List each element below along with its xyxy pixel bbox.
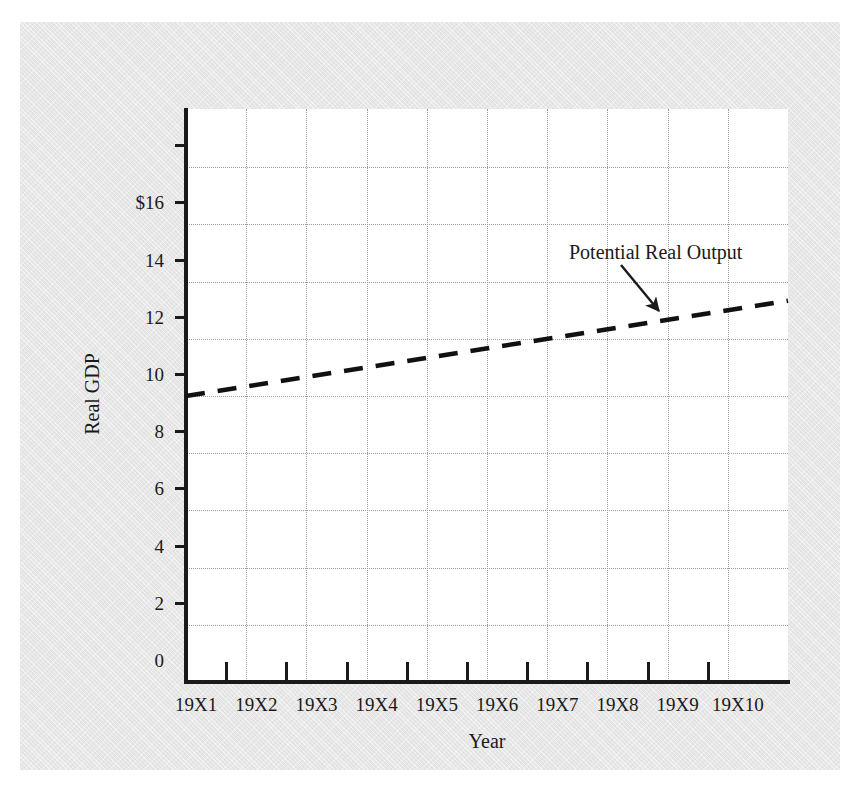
- x-axis-tick-label: 19X3: [295, 694, 337, 716]
- x-axis-tick-label: 19X1: [175, 694, 217, 716]
- gridline-vertical: [607, 109, 608, 681]
- x-axis-tick-label: 19X5: [416, 694, 458, 716]
- y-axis-tick-mark: [175, 602, 188, 605]
- x-axis-tick-mark: [225, 662, 228, 682]
- gridline-vertical: [487, 109, 488, 681]
- figure-panel: 02468101214$16 19X119X219X319X419X519X61…: [20, 22, 840, 770]
- y-axis-tick-mark: [175, 201, 188, 204]
- x-axis-tick-label: 19X4: [356, 694, 398, 716]
- gridline-vertical: [547, 109, 548, 681]
- x-axis-tick-mark: [466, 662, 469, 682]
- y-axis-tick-label: 2: [102, 594, 164, 613]
- y-axis-tick-labels: 02468101214$16: [102, 22, 164, 770]
- gridline-vertical: [427, 109, 428, 681]
- gridline-vertical: [306, 109, 307, 681]
- x-axis-tick-label: 19X6: [476, 694, 518, 716]
- gridline-vertical: [246, 109, 247, 681]
- y-axis-tick-label: 0: [102, 651, 164, 670]
- y-axis-tick-mark: [175, 316, 188, 319]
- y-axis-tick-label: 4: [102, 537, 164, 556]
- y-axis-tick-mark: [175, 430, 188, 433]
- x-axis-tick-mark: [346, 662, 349, 682]
- y-axis-tick-label: 8: [102, 422, 164, 441]
- y-axis-tick-mark: [175, 259, 188, 262]
- x-axis-tick-mark: [647, 662, 650, 682]
- y-axis-tick-label: $16: [102, 193, 164, 212]
- x-axis-tick-label: 19X7: [536, 694, 578, 716]
- y-axis-tick-label: 14: [102, 251, 164, 270]
- x-axis-tick-label: 19X9: [657, 694, 699, 716]
- x-axis-line: [184, 680, 790, 684]
- y-axis-tick-mark: [175, 545, 188, 548]
- y-axis-tick-mark: [175, 487, 188, 490]
- x-axis-tick-mark: [285, 662, 288, 682]
- y-axis-tick-label: 10: [102, 365, 164, 384]
- y-axis-tick-label: 6: [102, 479, 164, 498]
- x-axis-tick-mark: [707, 662, 710, 682]
- x-axis-tick-mark: [526, 662, 529, 682]
- plot-area: [186, 109, 788, 681]
- x-axis-title: Year: [469, 730, 506, 753]
- x-axis-tick-label: 19X8: [596, 694, 638, 716]
- annotation-potential-real-output-label: Potential Real Output: [569, 241, 742, 264]
- y-axis-tick-mark: [175, 373, 188, 376]
- x-axis-tick-mark: [406, 662, 409, 682]
- y-axis-title: Real GDP: [81, 353, 104, 435]
- x-axis-tick-mark: [586, 662, 589, 682]
- y-axis-tick-mark: [175, 144, 188, 147]
- gridline-vertical: [367, 109, 368, 681]
- x-axis-tick-label: 19X10: [712, 694, 764, 716]
- gridline-vertical: [728, 109, 729, 681]
- y-axis-tick-label: 12: [102, 308, 164, 327]
- y-axis-line: [184, 108, 188, 684]
- gridline-vertical: [668, 109, 669, 681]
- x-axis-tick-label: 19X2: [235, 694, 277, 716]
